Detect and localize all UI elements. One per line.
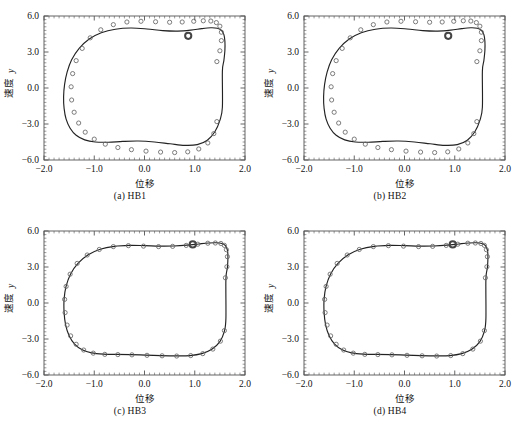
x-tick-label: 0.0 <box>139 164 151 174</box>
data-marker <box>385 20 389 24</box>
data-marker <box>71 72 75 76</box>
series-curve <box>324 243 488 356</box>
plot-hb2: −2.0−1.00.01.02.06.03.00.0−3.0−6.0位移速度y <box>260 0 520 215</box>
data-marker <box>77 121 81 125</box>
y-tick-label: 6.0 <box>27 11 39 21</box>
x-tick-label: 2.0 <box>239 379 251 389</box>
y-tick-label: −6.0 <box>22 370 39 380</box>
data-marker <box>332 110 336 114</box>
x-tick-label: −2.0 <box>35 164 52 174</box>
x-tick-label: −2.0 <box>295 379 312 389</box>
data-marker <box>352 137 356 141</box>
panel-caption-hb4: (d) HB4 <box>260 406 520 416</box>
data-marker <box>218 24 222 28</box>
x-axis-title: 位移 <box>135 178 155 189</box>
data-marker <box>180 20 184 24</box>
x-axis-title: 位移 <box>395 393 415 404</box>
series-markers <box>63 241 230 358</box>
y-tick-label: −3.0 <box>282 119 299 129</box>
series-curve <box>64 243 228 356</box>
x-tick-label: −1.0 <box>346 164 363 174</box>
data-marker <box>99 28 103 32</box>
y-tick-label: −6.0 <box>22 155 39 165</box>
y-tick-label: 6.0 <box>287 11 299 21</box>
x-tick-label: −1.0 <box>86 379 103 389</box>
data-marker <box>206 141 210 145</box>
data-marker <box>116 145 120 149</box>
data-marker <box>139 19 143 23</box>
data-marker <box>70 98 74 102</box>
x-tick-label: 1.0 <box>189 164 201 174</box>
data-marker <box>80 46 84 50</box>
data-marker <box>330 98 334 102</box>
y-tick-label: 0.0 <box>287 83 299 93</box>
data-marker <box>418 150 422 154</box>
data-marker <box>111 23 115 27</box>
data-marker <box>428 20 432 24</box>
y-tick-label: 6.0 <box>287 226 299 236</box>
data-marker <box>218 49 222 53</box>
data-marker <box>474 21 478 25</box>
svg-text:速度: 速度 <box>263 293 274 313</box>
plot-frame <box>44 16 245 160</box>
x-tick-label: 2.0 <box>499 164 511 174</box>
data-marker <box>219 39 223 43</box>
series-curve <box>64 28 225 146</box>
series-markers <box>323 241 490 358</box>
data-marker <box>72 110 76 114</box>
data-marker <box>340 46 344 50</box>
series-markers <box>69 19 223 155</box>
x-tick-label: 2.0 <box>239 164 251 174</box>
data-marker <box>475 60 479 64</box>
panel-caption-hb2: (b) HB2 <box>260 191 520 201</box>
highlight-marker <box>185 33 191 39</box>
y-tick-label: 0.0 <box>27 298 39 308</box>
data-marker <box>399 19 403 23</box>
data-marker <box>446 150 450 154</box>
panel-hb1: −2.0−1.00.01.02.06.03.00.0−3.0−6.0位移速度y … <box>0 0 260 215</box>
x-axis-title: 位移 <box>395 178 415 189</box>
y-axis-title: 速度y <box>263 68 276 98</box>
svg-text:速度: 速度 <box>3 293 14 313</box>
svg-text:y: y <box>6 68 16 74</box>
plot-hb3: −2.0−1.00.01.02.06.03.00.0−3.0−6.0位移速度y <box>0 215 260 430</box>
data-marker <box>331 72 335 76</box>
plot-frame <box>304 231 505 375</box>
x-tick-label: −2.0 <box>35 379 52 389</box>
x-tick-label: −1.0 <box>346 379 363 389</box>
y-tick-label: 3.0 <box>287 47 299 57</box>
svg-text:速度: 速度 <box>3 78 14 98</box>
x-tick-label: 1.0 <box>189 379 201 389</box>
data-marker <box>215 120 219 124</box>
data-marker <box>214 21 218 25</box>
y-axis-title: 速度y <box>263 283 276 313</box>
svg-text:y: y <box>266 68 276 74</box>
data-marker <box>376 145 380 149</box>
data-marker <box>186 150 190 154</box>
data-marker <box>74 59 78 63</box>
panel-caption-hb1: (a) HB1 <box>0 191 260 201</box>
highlight-marker <box>445 33 451 39</box>
x-tick-label: 0.0 <box>139 379 151 389</box>
plot-hb4: −2.0−1.00.01.02.06.03.00.0−3.0−6.0位移速度y <box>260 215 520 430</box>
plot-hb1: −2.0−1.00.01.02.06.03.00.0−3.0−6.0位移速度y <box>0 0 260 215</box>
data-marker <box>334 59 338 63</box>
svg-text:速度: 速度 <box>263 78 274 98</box>
y-tick-label: −6.0 <box>282 370 299 380</box>
y-tick-label: −3.0 <box>22 334 39 344</box>
data-marker <box>209 19 213 23</box>
y-tick-label: 0.0 <box>27 83 39 93</box>
data-marker <box>389 148 393 152</box>
data-marker <box>475 120 479 124</box>
panel-hb3: −2.0−1.00.01.02.06.03.00.0−3.0−6.0位移速度y … <box>0 215 260 430</box>
series-curve <box>324 28 485 146</box>
data-marker <box>92 137 96 141</box>
y-tick-label: 3.0 <box>27 262 39 272</box>
x-tick-label: 0.0 <box>399 379 411 389</box>
data-marker <box>371 23 375 27</box>
data-marker <box>452 19 456 23</box>
y-axis-title: 速度y <box>3 68 16 98</box>
series-markers <box>329 19 483 155</box>
x-tick-label: 2.0 <box>499 379 511 389</box>
data-marker <box>433 150 437 154</box>
